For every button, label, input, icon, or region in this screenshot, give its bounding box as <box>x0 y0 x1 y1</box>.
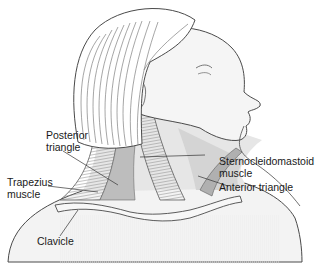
label-line: Posterior <box>46 129 88 141</box>
label-anterior-triangle: Anterior triangle <box>219 181 293 193</box>
label-posterior-triangle: Posterior triangle <box>46 129 88 153</box>
label-line: muscle <box>219 167 314 179</box>
label-sternocleidomastoid-muscle: Sternocleidomastoid muscle <box>219 155 314 179</box>
label-line: Clavicle <box>37 235 74 247</box>
label-line: Trapezius <box>7 176 53 188</box>
label-trapezius-muscle: Trapezius muscle <box>7 176 53 200</box>
label-line: muscle <box>7 188 53 200</box>
label-line: triangle <box>46 141 88 153</box>
label-line: Anterior triangle <box>219 181 293 193</box>
label-clavicle: Clavicle <box>37 235 74 247</box>
label-line: Sternocleidomastoid <box>219 155 314 167</box>
